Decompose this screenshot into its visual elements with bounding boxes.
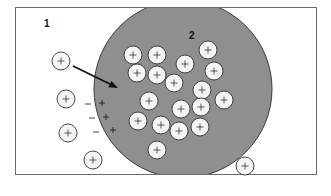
cell-diagram: [0, 0, 331, 196]
cation-outside: [59, 124, 77, 142]
cation-outside: [236, 157, 254, 175]
cation-inside: [129, 112, 147, 130]
cation-inside: [152, 116, 170, 134]
cation-outside: [52, 52, 70, 70]
cation-inside: [148, 141, 166, 159]
cation-inside: [192, 98, 210, 116]
region-label-outside: 1: [44, 18, 50, 29]
cation-inside: [148, 66, 166, 84]
cation-outside: [84, 151, 102, 169]
cation-inside: [191, 118, 209, 136]
cation-inside: [128, 64, 146, 82]
cell-body: [94, 0, 272, 178]
cation-inside: [140, 92, 158, 110]
region-label-inside: 2: [189, 30, 195, 41]
cation-inside: [170, 122, 188, 140]
cation-inside: [165, 74, 183, 92]
cation-inside: [199, 41, 217, 59]
cation-inside: [193, 81, 211, 99]
cation-inside: [176, 55, 194, 73]
cation-inside: [172, 100, 190, 118]
cation-inside: [148, 46, 166, 64]
cation-inside: [205, 62, 223, 80]
cation-inside: [124, 46, 142, 64]
cation-inside: [215, 91, 233, 109]
cation-outside: [57, 90, 75, 108]
